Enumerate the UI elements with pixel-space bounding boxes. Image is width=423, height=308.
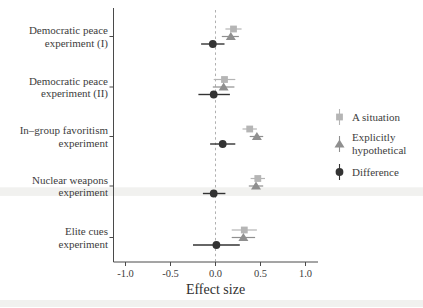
legend-item: Difference <box>336 164 399 180</box>
category-label: Democratic peaceexperiment (I) <box>29 24 108 50</box>
legend-square-icon <box>336 114 343 121</box>
circle-marker <box>213 241 221 249</box>
effect-size-figure: -1.0-0.50.00.51.0Effect sizeDemocratic p… <box>0 0 423 308</box>
x-tick-label: -1.0 <box>117 268 134 279</box>
category-label: In–group favoritismexperiment <box>20 124 109 149</box>
circle-marker <box>219 140 227 148</box>
x-tick-label: 1.0 <box>299 268 312 279</box>
square-marker <box>241 227 248 234</box>
x-tick-label: -0.5 <box>162 268 179 279</box>
legend-label: Difference <box>352 166 399 178</box>
category-label-line: Nuclear weapons <box>32 174 108 186</box>
circle-marker <box>210 91 218 99</box>
chart-canvas: -1.0-0.50.00.51.0Effect sizeDemocratic p… <box>0 0 423 308</box>
series-square <box>214 26 265 234</box>
legend-label: A situation <box>352 111 400 123</box>
square-marker <box>221 76 228 83</box>
axes: -1.0-0.50.00.51.0 <box>110 8 319 279</box>
category-label-line: Democratic peace <box>29 24 108 36</box>
legend-label: hypothetical <box>352 144 406 156</box>
category-label-line: experiment (II) <box>41 87 108 100</box>
category-label-line: experiment <box>59 238 108 250</box>
category-label: Democratic peaceexperiment (II) <box>29 75 108 101</box>
category-label-line: In–group favoritism <box>20 124 109 136</box>
x-tick-label: 0.0 <box>209 268 222 279</box>
circle-marker <box>210 190 218 198</box>
legend-label: Explicitly <box>352 131 396 143</box>
category-label-line: experiment (I) <box>45 37 109 50</box>
legend: A situationExplicitlyhypotheticalDiffere… <box>335 109 407 180</box>
series-circle <box>193 40 240 249</box>
x-axis-title: Effect size <box>186 282 245 297</box>
circle-marker <box>209 40 217 48</box>
legend-item: Explicitlyhypothetical <box>335 131 407 156</box>
x-tick-label: 0.5 <box>254 268 267 279</box>
legend-circle-icon <box>336 168 344 176</box>
category-label-line: experiment <box>59 186 108 198</box>
series-triangle <box>213 32 263 241</box>
legend-item: A situation <box>336 109 400 125</box>
paper-stripe <box>0 300 423 307</box>
square-marker <box>230 26 237 33</box>
legend-triangle-icon <box>335 139 345 147</box>
square-marker <box>254 175 261 182</box>
category-label: Elite cuesexperiment <box>59 225 108 250</box>
category-label-line: experiment <box>59 137 108 149</box>
category-label-line: Elite cues <box>65 225 108 237</box>
category-label-line: Democratic peace <box>29 75 108 87</box>
square-marker <box>246 126 253 133</box>
